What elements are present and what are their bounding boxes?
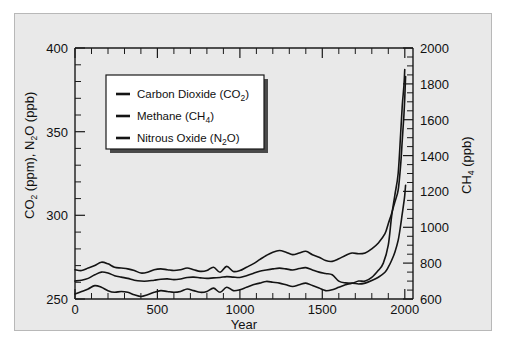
right-tick-label-600: 600 bbox=[420, 292, 442, 307]
right-tick-label-1600: 1600 bbox=[420, 113, 449, 128]
svg-text:CO2 (ppm), N2O (ppb): CO2 (ppm), N2O (ppb) bbox=[22, 92, 39, 219]
right-axis-title-unit: (ppb) bbox=[459, 137, 474, 171]
left-tick-label-300: 300 bbox=[46, 208, 68, 223]
left-tick-label-400: 400 bbox=[46, 41, 68, 56]
x-tick-label-1000: 1000 bbox=[225, 302, 254, 317]
svg-text:CH4 (ppb): CH4 (ppb) bbox=[459, 137, 476, 194]
greenhouse-gas-line-chart: 250 300 350 400 CO2 (ppm), N2O (ppb) bbox=[15, 14, 493, 332]
right-axis-title: CH4 (ppb) bbox=[459, 137, 476, 194]
x-tick-label-0: 0 bbox=[71, 302, 78, 317]
x-tick-label-500: 500 bbox=[147, 302, 169, 317]
right-tick-label-1400: 1400 bbox=[420, 149, 449, 164]
left-tick-label-250: 250 bbox=[46, 292, 68, 307]
chart-figure-root: 250 300 350 400 CO2 (ppm), N2O (ppb) bbox=[0, 0, 506, 355]
left-axis-title-end: O (ppb) bbox=[22, 92, 37, 136]
x-axis-tick-labels: 0 500 1000 1500 2000 bbox=[71, 302, 419, 317]
right-axis-title-ch4: CH bbox=[459, 175, 474, 194]
left-axis-title-co2: CO bbox=[22, 200, 37, 220]
left-axis-tick-labels: 250 300 350 400 bbox=[46, 41, 68, 307]
left-axis-ticks bbox=[75, 48, 85, 299]
left-tick-label-350: 350 bbox=[46, 125, 68, 140]
x-axis-title: Year bbox=[231, 317, 258, 332]
series-line-nitrous-oxide bbox=[75, 185, 406, 296]
x-axis-top-ticks bbox=[75, 48, 405, 58]
left-axis-title: CO2 (ppm), N2O (ppb) bbox=[22, 92, 39, 219]
x-tick-label-2000: 2000 bbox=[390, 302, 419, 317]
x-tick-label-1500: 1500 bbox=[308, 302, 337, 317]
figure-panel: 250 300 350 400 CO2 (ppm), N2O (ppb) bbox=[14, 13, 492, 331]
left-axis-title-mid: (ppm), N bbox=[22, 141, 37, 195]
right-tick-label-800: 800 bbox=[420, 256, 442, 271]
right-tick-label-2000: 2000 bbox=[420, 41, 449, 56]
right-tick-label-1800: 1800 bbox=[420, 77, 449, 92]
right-tick-label-1000: 1000 bbox=[420, 220, 449, 235]
right-tick-label-1200: 1200 bbox=[420, 184, 449, 199]
legend: Carbon Dioxide (CO2) Methane (CH4) Nitro… bbox=[106, 75, 268, 153]
right-axis-tick-labels: 600 800 1000 1200 1400 1600 1800 2000 bbox=[420, 41, 449, 307]
